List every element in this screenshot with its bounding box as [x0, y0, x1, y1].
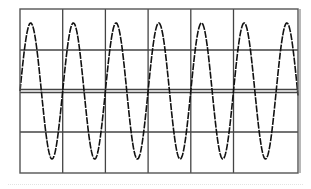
- zero-reference-line: [20, 90, 298, 93]
- sine-wave-trace: [20, 23, 298, 159]
- bottom-divider: [8, 184, 303, 185]
- chart-grid: [20, 9, 298, 173]
- oscilloscope-chart: [0, 0, 311, 189]
